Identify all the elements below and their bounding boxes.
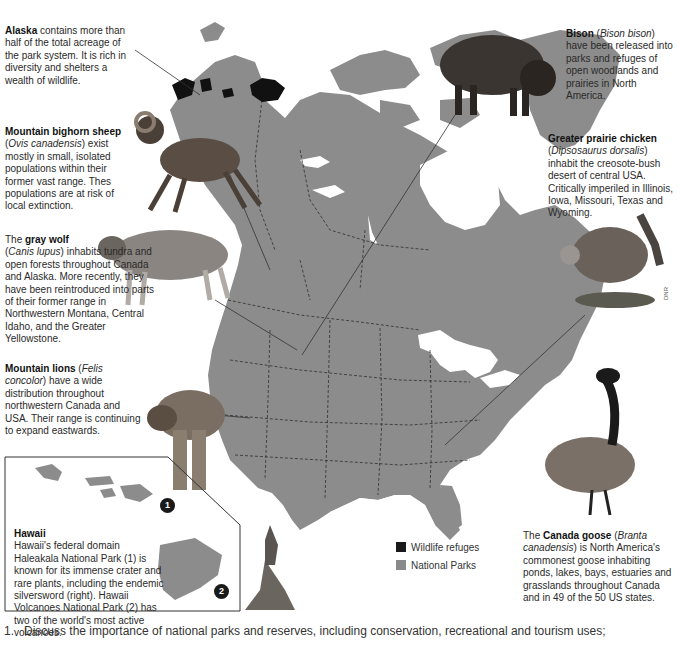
mountain-lion-illustration (147, 390, 225, 490)
hawaii-marker-1: 1 (160, 498, 175, 513)
mainland-landmass (170, 75, 605, 540)
caption-goose-title: Canada goose (543, 530, 611, 541)
hawaii-marker-2: 2 (214, 584, 229, 599)
caption-wolf-text: ) inhabits tundra and open forests throu… (5, 246, 154, 344)
canada-goose-illustration (545, 368, 635, 515)
caption-bison-title: Bison (566, 28, 594, 39)
legend-label-refuges: Wildlife refuges (411, 542, 479, 553)
caption-wolf-prefix: The (5, 234, 25, 245)
caption-bighorn-sheep: Mountain bighorn sheep(Ovis canadensis) … (5, 126, 130, 213)
caption-sheep-latin: Ovis canadensis (8, 138, 81, 149)
caption-alaska: Alaska contains more than half of the to… (5, 25, 135, 87)
caption-hawaii-title: Hawaii (14, 528, 46, 539)
caption-wolf-title: gray wolf (25, 234, 69, 245)
caption-prairie-chicken: Greater prairie chicken(Dipsosaurus dors… (548, 133, 678, 220)
caption-chicken-title: Greater prairie chicken (548, 133, 657, 144)
caption-canada-goose: The Canada goose (Branta canadensis) is … (523, 530, 678, 604)
caption-goose-prefix: The (523, 530, 543, 541)
caption-gray-wolf: The gray wolf(Canis lupus) inhabits tund… (5, 234, 155, 346)
question-text: Discuss the importance of national parks… (24, 624, 606, 638)
caption-mountain-lions: Mountain lions (Felis concolor) have a w… (5, 363, 145, 437)
caption-alaska-title: Alaska (5, 25, 37, 36)
legend-item-wildlife-refuges: Wildlife refuges (396, 538, 479, 556)
caption-sheep-title: Mountain bighorn sheep (5, 126, 121, 137)
caption-hawaii: HawaiiHawaii's federal domain Haleakala … (14, 528, 164, 640)
caption-bison: Bison (Bison bison) have been released i… (566, 28, 678, 102)
map-legend: Wildlife refuges National Parks (396, 538, 479, 574)
caption-wolf-latin: Canis lupus (8, 246, 60, 257)
question-number: 1. (4, 624, 24, 638)
caption-chicken-latin: Dipsosaurus dorsalis (551, 145, 644, 156)
legend-item-national-parks: National Parks (396, 556, 479, 574)
legend-label-parks: National Parks (411, 560, 476, 571)
question-1: 1.Discuss the importance of national par… (4, 624, 606, 638)
image-credit: DNR (663, 287, 669, 300)
caption-lion-title: Mountain lions (5, 363, 76, 374)
legend-swatch-parks (396, 560, 406, 570)
caption-bison-latin: Bison bison (600, 28, 652, 39)
silversword-illustration (245, 525, 295, 610)
legend-swatch-refuges (396, 542, 406, 552)
